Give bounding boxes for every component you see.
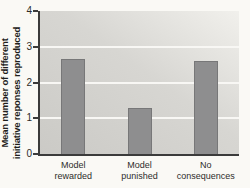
x-tick-label-line: consequences [170,171,242,182]
y-tick-mark-0 [33,153,38,155]
y-axis-line [38,11,40,156]
x-axis-line [38,154,239,156]
gridline-y-3 [40,46,239,48]
bar-model-punished [128,108,152,154]
x-tick-label-no-consequences: Noconsequences [170,160,242,182]
y-tick-label-0: 0 [16,149,32,159]
y-axis-title-line-1: Mean number of different [0,10,11,176]
plot-area [40,11,239,154]
bar-no-consequences [194,61,218,154]
x-tick-label-line: No [170,160,242,171]
x-tick-label-model-punished: Modelpunished [104,160,176,182]
x-tick-label-line: Model [37,160,109,171]
y-tick-label-4: 4 [16,6,32,16]
y-tick-mark-1 [33,117,38,119]
y-tick-mark-2 [33,82,38,84]
bar-model-rewarded [61,59,85,154]
y-tick-label-3: 3 [16,42,32,52]
y-tick-mark-3 [33,46,38,48]
x-tick-label-line: punished [104,171,176,182]
x-tick-label-line: rewarded [37,171,109,182]
bar-chart-figure: Mean number of different initiative repo… [0,0,250,188]
y-tick-label-1: 1 [16,113,32,123]
y-tick-mark-4 [33,10,38,12]
y-tick-label-2: 2 [16,78,32,88]
x-tick-label-model-rewarded: Modelrewarded [37,160,109,182]
x-tick-label-line: Model [104,160,176,171]
